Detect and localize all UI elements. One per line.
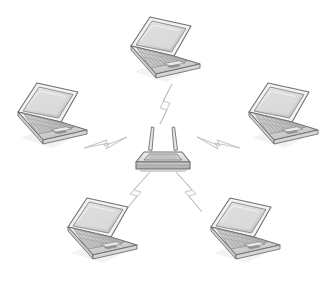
wireless-signal-bolt-icon-right: [197, 137, 240, 149]
wireless-network-diagram: Wireless Network Topology Five laptop cl…: [0, 0, 325, 282]
router-top-surface: [136, 152, 190, 162]
router-antenna-left: [149, 127, 155, 150]
laptop-icon: [18, 83, 87, 148]
router-antenna-right: [172, 127, 178, 150]
laptop-icon: [68, 198, 137, 263]
router-base-shadow: [138, 169, 188, 172]
router-front-face: [136, 162, 190, 169]
laptop-right[interactable]: [236, 78, 322, 150]
laptop-left[interactable]: [5, 78, 91, 150]
laptop-icon: [249, 83, 318, 148]
wireless-signal-bolt-icon-top: [160, 84, 172, 124]
laptop-bottom-left[interactable]: [55, 193, 141, 265]
laptop-icon: [131, 17, 200, 82]
laptop-bottom-right[interactable]: [198, 193, 284, 265]
laptop-top[interactable]: [118, 12, 204, 84]
laptop-icon: [211, 198, 280, 263]
wireless-router[interactable]: [128, 122, 198, 178]
wireless-router-icon: [136, 127, 190, 172]
